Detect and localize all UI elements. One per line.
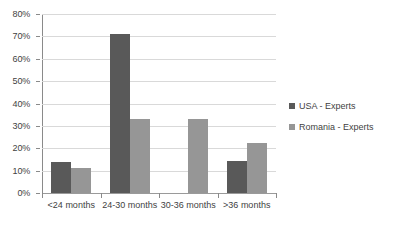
category-tick bbox=[101, 193, 102, 198]
bar bbox=[188, 119, 208, 193]
plot-area bbox=[42, 14, 276, 193]
y-axis-tick-label: 80% bbox=[13, 9, 30, 19]
chart-legend: USA - Experts Romania - Experts bbox=[289, 101, 374, 132]
bar bbox=[71, 168, 91, 193]
bar bbox=[51, 162, 71, 193]
y-axis-tick bbox=[36, 81, 40, 82]
y-axis: 80%70%60%50%40%30%20%10%0% bbox=[0, 0, 42, 242]
bar-group bbox=[218, 14, 277, 193]
y-axis-tick-label: 10% bbox=[13, 166, 30, 176]
y-axis-tick-label: 50% bbox=[13, 76, 30, 86]
bar bbox=[110, 34, 130, 193]
y-axis-tick-label: 0% bbox=[17, 188, 30, 198]
y-axis-tick bbox=[36, 59, 40, 60]
bar-chart: 80%70%60%50%40%30%20%10%0% <24 months24-… bbox=[0, 0, 394, 242]
x-axis-category-label: >36 months bbox=[218, 200, 277, 240]
category-tick bbox=[42, 193, 43, 198]
legend-item: Romania - Experts bbox=[289, 122, 374, 132]
bar-group bbox=[101, 14, 160, 193]
y-axis-tick bbox=[36, 126, 40, 127]
y-axis-tick bbox=[36, 36, 40, 37]
category-tick bbox=[276, 193, 277, 198]
category-tick bbox=[218, 193, 219, 198]
x-axis-category-label: 24-30 months bbox=[101, 200, 160, 240]
y-axis-tick-label: 20% bbox=[13, 143, 30, 153]
y-axis-tick bbox=[36, 171, 40, 172]
bar bbox=[130, 119, 150, 193]
x-axis-category-label: <24 months bbox=[42, 200, 101, 240]
legend-item: USA - Experts bbox=[289, 101, 374, 111]
bar bbox=[247, 143, 267, 193]
bar bbox=[227, 161, 247, 193]
y-axis-tick-label: 60% bbox=[13, 54, 30, 64]
y-axis-tick bbox=[36, 104, 40, 105]
legend-label: Romania - Experts bbox=[299, 122, 374, 132]
legend-swatch-usa-icon bbox=[289, 103, 295, 109]
x-axis-category-label: 30-36 months bbox=[159, 200, 218, 240]
category-ticks bbox=[42, 193, 276, 199]
y-axis-tick bbox=[36, 14, 40, 15]
x-axis-labels: <24 months24-30 months30-36 months>36 mo… bbox=[42, 200, 276, 240]
y-axis-tick-label: 30% bbox=[13, 121, 30, 131]
y-axis-tick bbox=[36, 148, 40, 149]
y-axis-tick-label: 70% bbox=[13, 31, 30, 41]
legend-label: USA - Experts bbox=[299, 101, 356, 111]
y-axis-tick bbox=[36, 193, 40, 194]
legend-swatch-romania-icon bbox=[289, 124, 295, 130]
bar-group bbox=[42, 14, 101, 193]
bar-groups bbox=[42, 14, 276, 193]
y-axis-tick-label: 40% bbox=[13, 99, 30, 109]
bar-group bbox=[159, 14, 218, 193]
category-tick bbox=[159, 193, 160, 198]
